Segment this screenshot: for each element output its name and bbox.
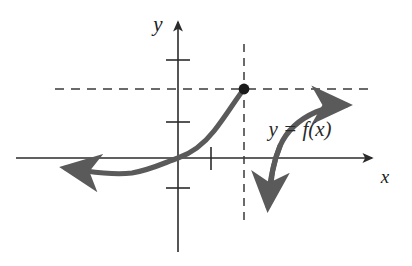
function-graph-figure: y x y = f(x) — [0, 0, 412, 266]
y-axis-label: y — [151, 12, 163, 36]
x-axis-label: x — [380, 166, 390, 187]
curve-right-branch-lower — [268, 146, 280, 206]
curve-left-branch — [66, 89, 244, 174]
marked-point — [239, 84, 250, 95]
function-label: y = f(x) — [266, 117, 331, 141]
graph-canvas: y x y = f(x) — [0, 0, 412, 266]
